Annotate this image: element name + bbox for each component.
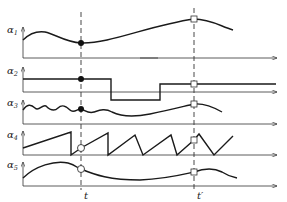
marker-t-prime (191, 169, 197, 175)
marker-t (78, 106, 84, 112)
trace-label: α1 (7, 24, 18, 37)
marker-t-prime (191, 81, 197, 87)
marker-t (78, 145, 85, 152)
trace-label: α3 (7, 97, 18, 110)
signal-sawtooth (23, 132, 233, 155)
marker-t-prime (191, 16, 197, 22)
trace-alpha-3: α3 (7, 97, 277, 124)
trace-alpha-1: α1 (7, 16, 233, 58)
marker-t (78, 76, 84, 82)
signal-curve (23, 162, 237, 180)
marker-t-prime (191, 137, 197, 143)
timing-diagram: α1 α2 α3 α4 α5 (0, 0, 287, 202)
marker-t-prime (191, 101, 197, 107)
marker-t (78, 40, 84, 46)
trace-alpha-4: α4 (7, 129, 277, 155)
signal-curve (23, 19, 233, 43)
trace-alpha-2: α2 (7, 65, 277, 100)
time-label-t: t (84, 190, 89, 201)
trace-label: α4 (7, 129, 18, 142)
trace-alpha-5: α5 (7, 159, 277, 186)
trace-label: α5 (7, 159, 18, 172)
marker-t (78, 166, 85, 173)
time-label-t-prime: t′ (197, 190, 204, 201)
trace-label: α2 (7, 65, 18, 78)
signal-step (23, 79, 276, 100)
